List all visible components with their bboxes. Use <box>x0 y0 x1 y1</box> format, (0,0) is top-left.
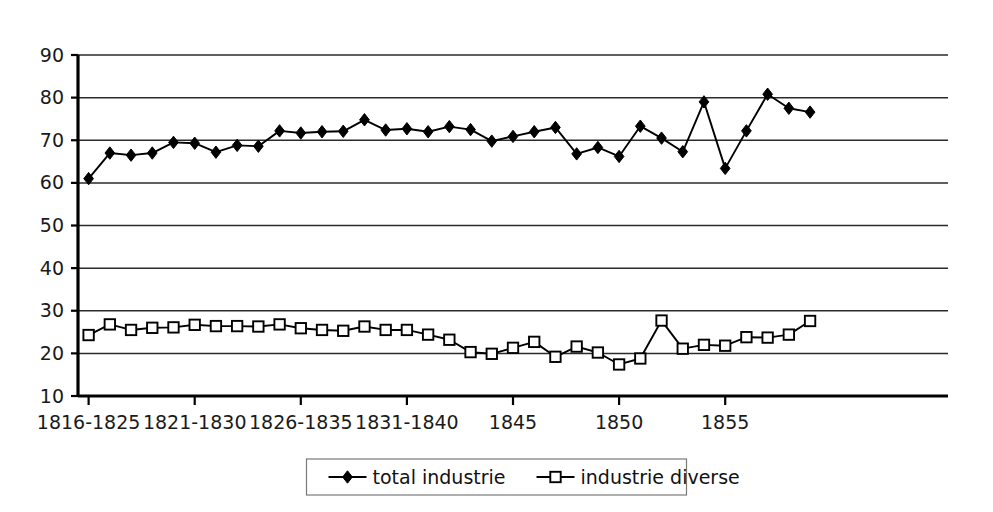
data-point <box>359 321 369 331</box>
data-point <box>274 319 284 329</box>
x-tick-label-5: 1850 <box>595 411 643 433</box>
y-tick-label-70: 70 <box>40 129 64 151</box>
y-tick-label-60: 60 <box>40 171 64 193</box>
data-point <box>699 340 709 350</box>
data-point <box>487 349 497 359</box>
y-tick-label-30: 30 <box>40 299 64 321</box>
data-point <box>338 326 348 336</box>
x-tick-label-2: 1826-1835 <box>249 411 353 433</box>
data-point <box>296 323 306 333</box>
x-tick-label-4: 1845 <box>489 411 537 433</box>
data-point <box>805 316 815 326</box>
data-point <box>656 315 666 325</box>
data-point <box>741 332 751 342</box>
x-tick-label-3: 1831-1840 <box>355 411 459 433</box>
x-tick-label-6: 1855 <box>701 411 749 433</box>
data-point <box>465 347 475 357</box>
data-point <box>232 321 242 331</box>
data-point <box>784 329 794 339</box>
data-point <box>593 347 603 357</box>
data-point <box>168 322 178 332</box>
x-tick-label-0: 1816-1825 <box>37 411 141 433</box>
x-tick-label-1: 1821-1830 <box>143 411 247 433</box>
data-point <box>720 341 730 351</box>
legend-label-0: total industrie <box>373 466 506 488</box>
data-point <box>211 321 221 331</box>
chart-legend: total industrieindustrie diverse <box>307 459 740 495</box>
data-point <box>508 343 518 353</box>
y-tick-label-90: 90 <box>40 44 64 66</box>
data-point <box>402 325 412 335</box>
line-chart: 102030405060708090 1816-18251821-1830182… <box>0 0 993 512</box>
data-point <box>614 359 624 369</box>
data-point <box>126 325 136 335</box>
data-point <box>147 323 157 333</box>
data-point <box>444 335 454 345</box>
data-point <box>635 353 645 363</box>
data-point <box>253 321 263 331</box>
y-tick-label-80: 80 <box>40 86 64 108</box>
data-point <box>190 320 200 330</box>
data-point <box>317 325 327 335</box>
data-point <box>423 329 433 339</box>
chart-container: 102030405060708090 1816-18251821-1830182… <box>0 0 993 512</box>
legend-label-1: industrie diverse <box>581 466 740 488</box>
data-point <box>105 319 115 329</box>
data-point <box>571 341 581 351</box>
legend-marker-open-square-icon <box>550 472 560 482</box>
data-point <box>678 343 688 353</box>
y-tick-label-50: 50 <box>40 214 64 236</box>
x-axis-tick-labels: 1816-18251821-18301826-18351831-18401845… <box>37 411 750 433</box>
data-point <box>550 352 560 362</box>
data-point <box>83 330 93 340</box>
y-tick-label-20: 20 <box>40 342 64 364</box>
y-tick-label-10: 10 <box>40 385 64 407</box>
chart-background <box>0 0 993 512</box>
y-tick-label-40: 40 <box>40 257 64 279</box>
y-axis-tick-labels: 102030405060708090 <box>40 44 64 407</box>
data-point <box>529 337 539 347</box>
data-point <box>380 325 390 335</box>
data-point <box>762 332 772 342</box>
